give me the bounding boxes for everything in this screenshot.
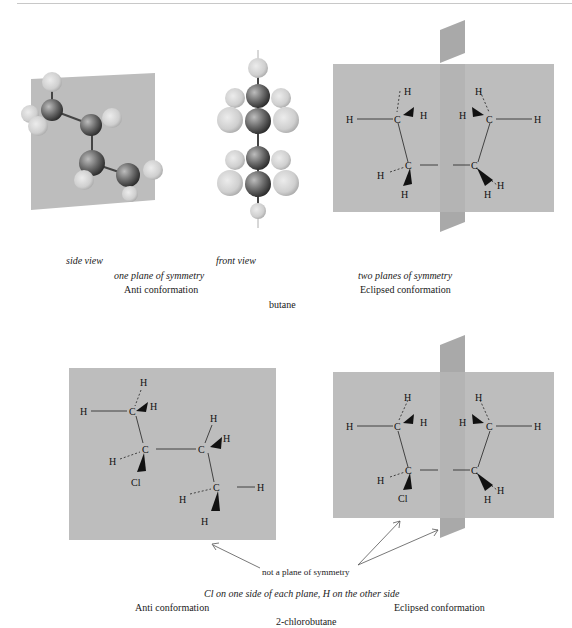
svg-text:H: H — [179, 494, 186, 505]
svg-text:C: C — [471, 465, 478, 476]
svg-text:H: H — [346, 421, 353, 432]
chlorobutane-eclipsed-diagram: C C C C H H H H Cl H H H H H — [333, 335, 554, 538]
chlorobutane-title: 2-chlorobutane — [276, 616, 337, 627]
svg-text:H: H — [459, 110, 466, 121]
chlorobutane-note: Cl on one side of each plane, H on the o… — [204, 588, 400, 599]
svg-text:C: C — [129, 406, 136, 417]
svg-text:H: H — [404, 392, 411, 403]
svg-text:H: H — [484, 189, 491, 200]
svg-text:H: H — [420, 110, 427, 121]
svg-text:H: H — [223, 433, 230, 444]
svg-text:C: C — [471, 160, 478, 171]
svg-text:H: H — [140, 377, 147, 388]
butane-anti-front-view-model — [217, 50, 299, 228]
svg-text:H: H — [210, 413, 217, 424]
svg-text:H: H — [497, 180, 504, 191]
svg-text:C: C — [142, 444, 149, 455]
svg-text:H: H — [404, 86, 411, 97]
carbon-atom — [41, 99, 63, 121]
front-view-label: front view — [216, 255, 256, 266]
butane-anti-symmetry-note: one plane of symmetry — [114, 270, 204, 281]
butane-eclipsed-diagram: C C C C H H H H H H H H H H — [333, 20, 554, 232]
svg-text:H: H — [201, 516, 208, 527]
svg-text:Cl: Cl — [131, 477, 141, 488]
svg-text:H: H — [401, 189, 408, 200]
svg-text:H: H — [150, 401, 157, 412]
svg-text:H: H — [484, 494, 491, 505]
svg-text:H: H — [346, 114, 353, 125]
butane-eclipsed-label: Eclipsed conformation — [360, 284, 451, 295]
svg-text:H: H — [459, 417, 466, 428]
symmetry-plane — [69, 368, 276, 540]
svg-text:H: H — [475, 86, 482, 97]
butane-anti-side-view-model: C C C C H H H H H H H H H H C C — [0, 0, 572, 628]
chlorobutane-anti-diagram: C C C C H H H H Cl H H H H H — [69, 368, 276, 540]
svg-text:C: C — [405, 465, 412, 476]
svg-text:H: H — [497, 485, 504, 496]
vertical-plane — [440, 372, 465, 518]
not-plane-of-symmetry-annotation: not a plane of symmetry — [262, 567, 349, 577]
svg-text:C: C — [405, 160, 412, 171]
butane-eclipsed-symmetry-note: two planes of symmetry — [358, 270, 452, 281]
vertical-plane — [440, 64, 465, 212]
svg-text:H: H — [534, 421, 541, 432]
svg-text:H: H — [257, 482, 264, 493]
svg-text:H: H — [377, 475, 384, 486]
svg-text:C: C — [394, 114, 401, 125]
svg-text:H: H — [377, 170, 384, 181]
chlorobutane-anti-label: Anti conformation — [135, 602, 209, 613]
svg-text:H: H — [420, 417, 427, 428]
side-view-label: side view — [66, 255, 103, 266]
butane-anti-label: Anti conformation — [124, 284, 198, 295]
svg-text:C: C — [486, 421, 493, 432]
carbon-atom — [116, 163, 140, 187]
butane-title: butane — [269, 299, 296, 310]
svg-text:H: H — [80, 406, 87, 417]
chlorobutane-eclipsed-label: Eclipsed conformation — [394, 602, 485, 613]
svg-text:C: C — [213, 482, 220, 493]
svg-text:C: C — [198, 444, 205, 455]
svg-text:H: H — [475, 392, 482, 403]
svg-text:H: H — [109, 456, 116, 467]
svg-text:C: C — [394, 421, 401, 432]
svg-text:Cl: Cl — [398, 493, 408, 504]
svg-text:H: H — [534, 114, 541, 125]
svg-text:C: C — [486, 114, 493, 125]
carbon-atom — [80, 114, 102, 136]
